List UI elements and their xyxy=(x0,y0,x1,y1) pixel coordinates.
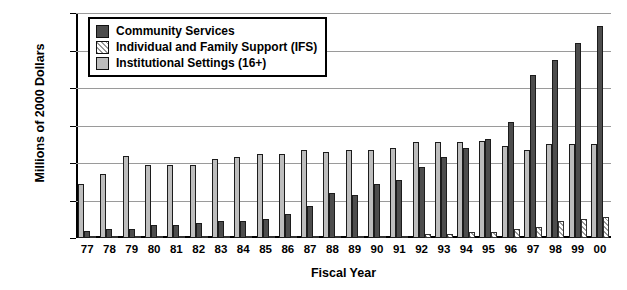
clipped-title-remnant xyxy=(250,0,580,7)
x-axis-tick-labels: 7778798081828384858687888990919293949596… xyxy=(76,243,611,255)
bar-cs-96 xyxy=(508,122,514,238)
chart-root: Millions of 2000 Dollars $120$100$80$60$… xyxy=(0,0,627,290)
bar-ifs-96 xyxy=(514,229,520,238)
bar-group xyxy=(589,13,611,238)
x-tick-label: 90 xyxy=(366,243,388,255)
x-tick-label: 85 xyxy=(254,243,276,255)
bar-group xyxy=(344,13,366,238)
x-tick-label: 97 xyxy=(522,243,544,255)
bar-group xyxy=(433,13,455,238)
bar-group xyxy=(410,13,432,238)
bar-cs-97 xyxy=(530,75,536,238)
bar-cs-89 xyxy=(352,195,358,238)
legend-label: Individual and Family Support (IFS) xyxy=(116,40,317,54)
x-tick-label: 79 xyxy=(121,243,143,255)
bar-ifs-90 xyxy=(380,236,386,238)
bar-ifs-84 xyxy=(246,236,252,238)
bar-ifs-89 xyxy=(358,236,364,238)
bar-ifs-91 xyxy=(402,236,408,238)
bar-cs-91 xyxy=(396,180,402,238)
bar-cs-93 xyxy=(441,157,447,238)
legend-label: Institutional Settings (16+) xyxy=(116,56,266,70)
y-axis-title: Millions of 2000 Dollars xyxy=(33,13,47,213)
x-tick-label: 86 xyxy=(277,243,299,255)
bar-ifs-82 xyxy=(202,236,208,238)
bar-ifs-79 xyxy=(135,236,141,238)
x-tick-label: 77 xyxy=(76,243,98,255)
x-tick-label: 99 xyxy=(567,243,589,255)
x-tick-label: 80 xyxy=(143,243,165,255)
bar-cs-94 xyxy=(463,148,469,238)
x-tick-label: 88 xyxy=(321,243,343,255)
bar-ifs-85 xyxy=(269,236,275,238)
chart-legend: Community ServicesIndividual and Family … xyxy=(88,17,327,77)
legend-item: Individual and Family Support (IFS) xyxy=(96,39,317,55)
bar-ifs-98 xyxy=(558,221,564,238)
bar-group xyxy=(477,13,499,238)
legend-swatch-ifs xyxy=(96,41,109,54)
bar-ifs-87 xyxy=(313,236,319,238)
legend-swatch-cs xyxy=(96,25,109,38)
bar-group xyxy=(455,13,477,238)
bar-cs-99 xyxy=(575,43,581,238)
x-tick-label: 94 xyxy=(455,243,477,255)
x-tick-label: 81 xyxy=(165,243,187,255)
x-tick-label: 78 xyxy=(98,243,120,255)
bar-ifs-81 xyxy=(179,236,185,238)
x-tick-label: 95 xyxy=(477,243,499,255)
bar-cs-95 xyxy=(485,139,491,238)
bar-group xyxy=(388,13,410,238)
x-tick-label: 98 xyxy=(544,243,566,255)
bar-ifs-94 xyxy=(469,232,475,238)
x-tick-label: 83 xyxy=(210,243,232,255)
bar-cs-87 xyxy=(307,206,313,238)
x-tick-label: 89 xyxy=(344,243,366,255)
bar-ifs-86 xyxy=(291,236,297,238)
bar-ifs-92 xyxy=(425,234,431,238)
x-tick-label: 91 xyxy=(388,243,410,255)
bar-ifs-78 xyxy=(112,236,118,238)
x-tick-label: 82 xyxy=(187,243,209,255)
bar-group xyxy=(500,13,522,238)
bar-ifs-00 xyxy=(603,217,609,238)
x-tick-label: 96 xyxy=(500,243,522,255)
bar-cs-90 xyxy=(374,184,380,238)
bar-group xyxy=(366,13,388,238)
bar-ifs-77 xyxy=(90,236,96,238)
bar-ifs-95 xyxy=(491,232,497,238)
x-tick-label: 87 xyxy=(299,243,321,255)
legend-item: Institutional Settings (16+) xyxy=(96,55,317,71)
bar-ifs-88 xyxy=(335,236,341,238)
x-tick-label: 92 xyxy=(410,243,432,255)
x-axis-title: Fiscal Year xyxy=(76,266,611,280)
bar-group xyxy=(567,13,589,238)
x-tick-label: 84 xyxy=(232,243,254,255)
bar-ifs-80 xyxy=(157,236,163,238)
bar-ifs-93 xyxy=(447,234,453,238)
bar-ifs-83 xyxy=(224,236,230,238)
bar-group xyxy=(522,13,544,238)
bar-cs-88 xyxy=(329,193,335,238)
legend-item: Community Services xyxy=(96,23,317,39)
bar-cs-98 xyxy=(552,60,558,238)
bar-cs-92 xyxy=(419,167,425,238)
legend-swatch-inst xyxy=(96,57,109,70)
bar-inst-79 xyxy=(123,156,129,239)
bar-group xyxy=(544,13,566,238)
bar-ifs-99 xyxy=(581,219,587,238)
legend-label: Community Services xyxy=(116,24,235,38)
x-tick-label: 00 xyxy=(589,243,611,255)
x-tick-label: 93 xyxy=(433,243,455,255)
y-tick-mark xyxy=(70,238,76,239)
bar-cs-86 xyxy=(285,214,291,238)
bar-cs-00 xyxy=(597,26,603,238)
bar-ifs-97 xyxy=(536,227,542,238)
